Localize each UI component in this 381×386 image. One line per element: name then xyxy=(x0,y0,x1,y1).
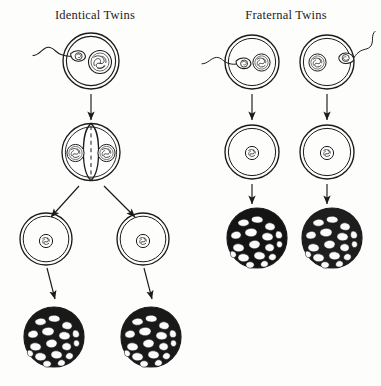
identical-separated-cell-left xyxy=(20,213,72,265)
identical-separated-cell-right xyxy=(117,213,169,265)
egg-nucleus xyxy=(253,54,270,71)
identical-embryo-left xyxy=(24,307,84,367)
cell-nucleus xyxy=(136,234,149,247)
daughter-nucleus-right xyxy=(98,144,115,161)
fraternal-zygote-right xyxy=(300,125,354,179)
arrow-identical-split-left xyxy=(51,186,79,217)
identical-fertilized-egg xyxy=(33,33,119,89)
zygote-nucleus xyxy=(245,146,258,159)
daughter-nucleus-left xyxy=(67,144,84,161)
egg-nucleus xyxy=(309,54,326,71)
sperm-icon xyxy=(338,31,375,64)
sperm-icon xyxy=(202,57,251,69)
identical-dividing-zygote xyxy=(62,124,120,181)
panel-fraternal-twins xyxy=(202,31,375,268)
fraternal-fertilized-egg-left xyxy=(202,35,279,89)
fraternal-embryo-left xyxy=(227,208,287,268)
egg-nucleus xyxy=(89,51,112,74)
fraternal-fertilized-egg-right xyxy=(300,31,375,89)
fraternal-zygote-left xyxy=(225,125,279,179)
arrow-identical-2-left xyxy=(47,268,55,299)
sperm-icon xyxy=(33,47,86,62)
diagram-canvas xyxy=(0,0,381,386)
arrow-identical-2-right xyxy=(144,268,152,299)
panel-identical-twins xyxy=(20,33,181,367)
cell-nucleus xyxy=(39,234,52,247)
fraternal-embryo-right xyxy=(302,208,362,268)
identical-embryo-right xyxy=(121,307,181,367)
arrow-identical-split-right xyxy=(104,186,135,217)
zygote-nucleus xyxy=(320,146,333,159)
twin-formation-diagram: Identical Twins Fraternal Twins xyxy=(0,0,381,386)
